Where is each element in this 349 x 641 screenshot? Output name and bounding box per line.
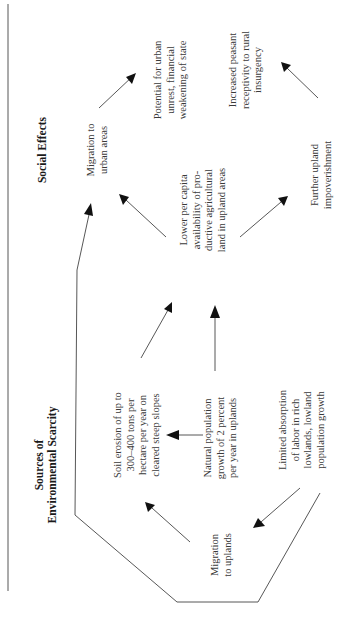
node-soil-erosion: Soil erosion of up to 300–400 tons per h… [112,392,162,478]
header-social-effects: Social Effects [36,117,49,183]
node-natural-population-growth: Natural population growth of 2 percent p… [202,397,240,480]
edge-lower-land-to-upland-impoverishment [240,202,281,237]
node-lower-land-availability: Lower per capita availability of pro- du… [178,168,228,252]
diagram-canvas: Social Effects Sources of Environmental … [0,0,349,641]
arrowhead-icon [84,203,93,216]
arrowhead-icon [166,430,179,440]
edge-limited-absorption-to-migration-uplands [261,488,300,522]
arrowhead-icon [278,196,288,206]
arrowhead-icon [164,302,172,313]
arrowhead-icon [145,502,155,512]
edge-upland-impoverishment-to-peasant-insurgency [287,68,318,98]
arrowhead-icon [210,305,220,318]
arrowhead-icon [126,73,136,84]
node-upland-impoverishment: Further upland impoverishment [309,141,334,209]
arrowhead-icon [119,194,129,205]
node-limited-absorption: Limited absorption of labor in rich lowl… [277,390,327,470]
node-migration-uplands: Migration to uplands [209,533,234,576]
header-sources-environmental-scarcity: Sources of Environmental Scarcity [33,407,59,524]
node-urban-unrest: Potential for urban unrest, financial we… [152,41,190,120]
node-migration-urban-areas: Migration to urban areas [85,124,110,177]
edge-lower-land-to-migration-urban [126,200,166,237]
edge-soil-erosion-to-lower-land [141,310,168,358]
node-peasant-insurgency: Increased peasant receptivity to rural i… [227,31,265,109]
edge-migration-uplands-to-soil-erosion [152,508,190,542]
